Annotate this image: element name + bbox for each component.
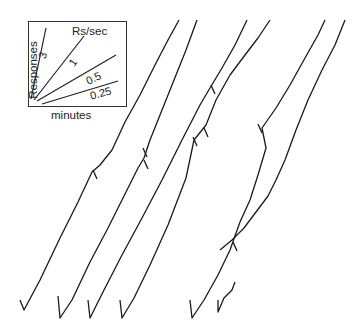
reinforcement-pip (93, 170, 97, 179)
reinforcement-pip (211, 85, 215, 94)
reinforcement-pip (233, 242, 237, 251)
record-7-line (220, 20, 345, 250)
cumulative-records-plot (0, 0, 360, 332)
legend-rate-lines (31, 28, 118, 104)
record-4-line (120, 20, 270, 318)
record-5-line (190, 20, 325, 318)
reinforcement-pip (258, 124, 262, 133)
record-2-line (58, 20, 197, 318)
reinforcement-pip (144, 160, 148, 169)
record-6-line (218, 282, 235, 312)
record-3-line (88, 20, 247, 318)
record-1-line (20, 20, 179, 310)
reinforcement-pip (204, 128, 208, 137)
